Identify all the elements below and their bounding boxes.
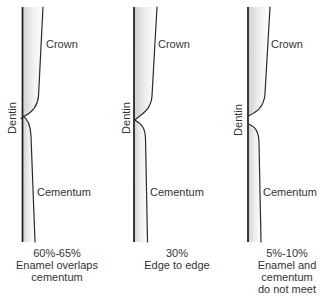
panel-gap: Crown Dentin Cementum 5%-10% Enamel and … <box>232 7 317 295</box>
caption-line: Enamel and <box>258 259 317 271</box>
caption-percentage: 60%-65% <box>33 247 81 259</box>
caption-percentage: 30% <box>166 247 188 259</box>
cementum-label: Cementum <box>263 186 317 198</box>
caption: 30% Edge to edge <box>144 247 209 271</box>
caption-line: Edge to edge <box>144 259 209 271</box>
crown-label: Crown <box>158 38 190 50</box>
dentin-label: Dentin <box>6 102 18 134</box>
panel-overlap: Crown Dentin Cementum 60%-65% Enamel ove… <box>6 7 98 283</box>
panel-edge-to-edge: Crown Dentin Cementum 30% Edge to edge <box>120 7 210 271</box>
caption: 60%-65% Enamel overlaps cementum <box>16 247 98 283</box>
cementum-label: Cementum <box>150 186 204 198</box>
caption-line: do not meet <box>258 283 316 295</box>
crown-label: Crown <box>46 38 78 50</box>
caption-line: cementum <box>261 271 312 283</box>
dentin-label: Dentin <box>120 102 132 134</box>
cementum-label: Cementum <box>37 186 91 198</box>
caption-line: cementum <box>31 271 82 283</box>
caption-line: Enamel overlaps <box>16 259 98 271</box>
crown-label: Crown <box>271 38 303 50</box>
caption-percentage: 5%-10% <box>266 247 308 259</box>
caption: 5%-10% Enamel and cementum do not meet <box>258 247 317 295</box>
dentin-label: Dentin <box>232 104 244 136</box>
cej-diagram: Crown Dentin Cementum 60%-65% Enamel ove… <box>0 0 324 303</box>
